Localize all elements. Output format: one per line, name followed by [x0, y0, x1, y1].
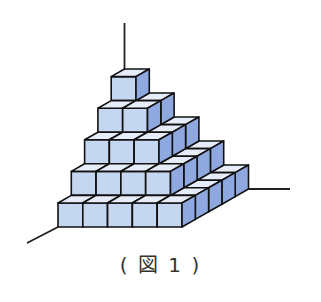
- diagram-canvas: ( 図 1 ): [0, 0, 321, 302]
- cube-stack: [58, 69, 249, 227]
- unit-cube: [157, 195, 195, 227]
- cube-front-face: [85, 140, 110, 164]
- cube-front-face: [134, 140, 159, 164]
- unit-cube: [111, 69, 149, 101]
- cube-front-face: [157, 203, 182, 227]
- cube-front-face: [96, 171, 121, 195]
- cube-front-face: [121, 171, 146, 195]
- cube-front-face: [108, 203, 133, 227]
- cube-front-face: [123, 108, 148, 132]
- cube-front-face: [109, 140, 134, 164]
- cube-front-face: [111, 77, 136, 101]
- cube-front-face: [71, 171, 96, 195]
- unit-cube: [123, 101, 161, 133]
- figure-caption: ( 図 1 ): [0, 249, 321, 278]
- cube-front-face: [58, 203, 83, 227]
- cube-front-face: [98, 108, 123, 132]
- cube-front-face: [132, 203, 157, 227]
- left-axis: [27, 227, 58, 243]
- cube-front-face: [146, 171, 171, 195]
- cube-front-face: [83, 203, 108, 227]
- unit-cube: [134, 132, 172, 164]
- unit-cube: [146, 164, 184, 196]
